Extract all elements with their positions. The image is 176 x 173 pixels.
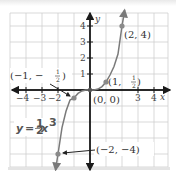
label-point-neg1-num: 1 [56, 68, 60, 75]
curve-arrow-bottom [56, 166, 57, 170]
x-tick-neg3: −3 [33, 93, 47, 103]
x-tick-neg4: −4 [16, 93, 30, 103]
x-tick-4: 4 [151, 93, 157, 103]
equation-y: y [16, 122, 24, 135]
y-tick-4: 4 [80, 21, 86, 31]
x-axis-label: x [160, 92, 165, 102]
equation-exponent: 3 [49, 116, 57, 129]
label-point-1-half-prefix: (1, [108, 76, 121, 87]
equation-x: x [40, 122, 49, 135]
graph-frame: y x 4 3 2 1 −4 −3 −2 3 4 (2, 4) (1, 1 2 … [0, 0, 176, 173]
label-point-neg1-suffix: ) [62, 70, 66, 81]
y-tick-1: 1 [80, 69, 86, 79]
y-tick-3: 3 [80, 37, 86, 47]
cubic-function-graph: y x 4 3 2 1 −4 −3 −2 3 4 (2, 4) (1, 1 2 … [0, 0, 176, 173]
x-tick-3: 3 [135, 93, 141, 103]
x-tick-neg2: −2 [48, 93, 61, 103]
label-point-neg1-den: 2 [56, 76, 60, 83]
label-point-neg1-prefix: (−1, − [10, 70, 43, 81]
curve-arrow-top [124, 10, 125, 14]
label-point-neg2-neg4: (−2, −4) [96, 144, 140, 155]
point-neg2-neg4 [55, 151, 60, 156]
label-point-1-half-den: 2 [132, 82, 136, 89]
point-2-4 [119, 23, 124, 28]
y-tick-2: 2 [80, 53, 86, 63]
label-point-neg1-neghalf: (−1, − 1 2 ) [10, 68, 72, 83]
label-point-2-4: (2, 4) [124, 29, 151, 40]
bottom-shadow [8, 167, 170, 170]
point-origin [88, 88, 92, 92]
point-neg1-neghalf [71, 95, 76, 100]
equation-label: y = 1 2 x 3 [14, 116, 57, 137]
label-origin: (0, 0) [93, 94, 120, 105]
label-point-1-half-suffix: ) [137, 76, 141, 87]
y-axis-label: y [94, 14, 101, 24]
equation-equals: = [25, 122, 34, 135]
label-point-1-half-num: 1 [132, 74, 136, 81]
